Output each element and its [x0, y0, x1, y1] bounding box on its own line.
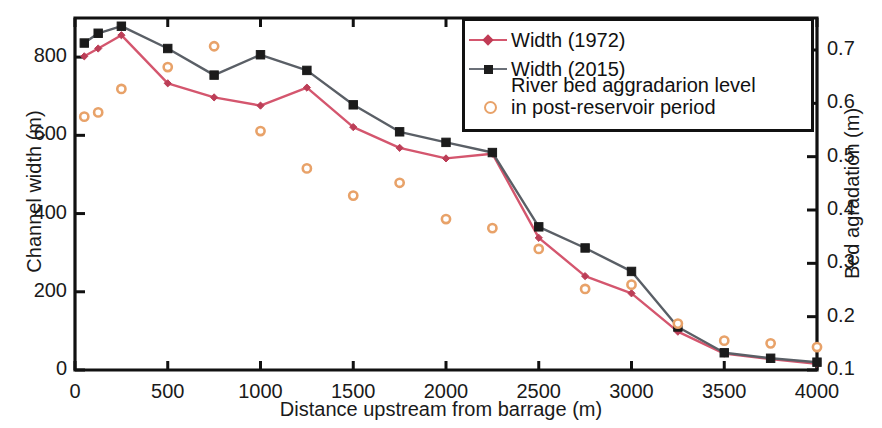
data-point-circle: [117, 85, 125, 93]
data-point-square: [117, 22, 125, 30]
legend-marker-open-circle-icon: [465, 83, 511, 129]
data-point-circle: [488, 224, 496, 232]
data-point-diamond: [257, 102, 264, 109]
y-tick-label-left: 400: [15, 201, 67, 224]
data-point-circle: [256, 127, 264, 135]
legend-marker-diamond-icon: [465, 31, 511, 49]
y-tick-label-right: 0.3: [827, 250, 882, 273]
data-point-circle: [349, 192, 357, 200]
data-point-circle: [581, 285, 589, 293]
x-tick-label: 3000: [592, 380, 672, 403]
data-point-circle: [674, 320, 682, 328]
data-point-square: [627, 267, 635, 275]
data-point-square: [813, 358, 821, 366]
x-tick-label: 4000: [777, 380, 857, 403]
y-tick-label-left: 800: [15, 44, 67, 67]
y-tick-label-left: 600: [15, 122, 67, 145]
data-point-circle: [767, 339, 775, 347]
data-point-circle: [396, 179, 404, 187]
y-tick-label-left: 0: [15, 357, 67, 380]
legend-marker-square-icon: [465, 60, 511, 78]
data-point-square: [256, 51, 264, 59]
data-point-circle: [627, 281, 635, 289]
legend-item-width-1972[interactable]: Width (1972): [465, 25, 811, 55]
data-point-diamond: [442, 155, 449, 162]
data-point-square: [303, 66, 311, 74]
data-point-circle: [94, 108, 102, 116]
data-point-square: [581, 244, 589, 252]
data-point-diamond: [396, 144, 403, 151]
y-tick-label-right: 0.2: [827, 304, 882, 327]
data-point-square: [80, 39, 88, 47]
y-tick-label-right: 0.7: [827, 37, 882, 60]
data-point-square: [720, 349, 728, 357]
data-point-square: [349, 101, 357, 109]
legend-label-bed-aggradation-line1: River bed aggradarion level: [511, 74, 756, 96]
data-point-circle: [813, 343, 821, 351]
data-point-square: [164, 44, 172, 52]
data-point-circle: [442, 215, 450, 223]
data-point-circle: [720, 337, 728, 345]
x-tick-label: 3500: [684, 380, 764, 403]
data-point-square: [395, 128, 403, 136]
data-point-circle: [164, 63, 172, 71]
y-tick-label-right: 0.6: [827, 90, 882, 113]
x-tick-label: 1500: [313, 380, 393, 403]
chart-legend: Width (1972) Width (2015) River bed aggr…: [462, 18, 814, 132]
x-tick-label: 1000: [221, 380, 301, 403]
legend-label-width-1972: Width (1972): [511, 29, 626, 51]
data-point-square: [488, 148, 496, 156]
data-point-circle: [210, 42, 218, 50]
data-point-square: [210, 71, 218, 79]
data-point-square: [94, 29, 102, 37]
y-tick-label-right: 0.5: [827, 144, 882, 167]
data-point-square: [442, 138, 450, 146]
chart-figure: Channel width (m) Bed agradation (m) Dis…: [0, 0, 882, 428]
data-point-square: [535, 223, 543, 231]
y-tick-label-left: 200: [15, 279, 67, 302]
y-tick-label-right: 0.4: [827, 197, 882, 220]
data-point-circle: [535, 245, 543, 253]
data-point-circle: [303, 164, 311, 172]
data-point-circle: [80, 113, 88, 121]
data-point-square: [766, 354, 774, 362]
x-tick-label: 2500: [499, 380, 579, 403]
legend-item-bed-aggradation[interactable]: River bed aggradarion level in post-rese…: [465, 83, 811, 109]
legend-label-bed-aggradation-line2: in post-reservoir period: [511, 96, 756, 118]
x-tick-label: 2000: [406, 380, 486, 403]
x-tick-label: 500: [128, 380, 208, 403]
data-point-diamond: [211, 94, 218, 101]
x-tick-label: 0: [35, 380, 115, 403]
y-tick-label-right: 0.1: [827, 357, 882, 380]
